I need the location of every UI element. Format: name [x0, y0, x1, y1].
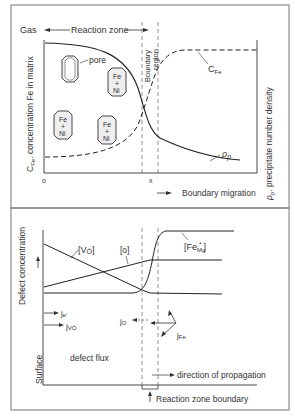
fe-mg-concentration-line: [44, 231, 234, 293]
propagation-label: direction of propagation: [177, 370, 266, 380]
gas-label: Gas: [20, 25, 37, 35]
propagation-arrow-icon: [170, 373, 175, 377]
jo-label: jO: [119, 317, 127, 326]
svg-text:+: +: [61, 123, 65, 130]
vo-label: [VÖ]: [78, 245, 94, 255]
y-axis-right-label: ρp. precipitate number density: [264, 87, 275, 201]
arrow-up-icon: [36, 256, 40, 261]
o-label: [o]: [120, 245, 129, 255]
svg-text:+: +: [105, 128, 109, 135]
boundary-bracket: [142, 385, 158, 389]
particle-fe-ni-2: Fe + Ni: [54, 111, 72, 139]
arrow-right-icon: [166, 191, 172, 195]
x-axis-label: Boundary migration: [182, 188, 256, 198]
svg-text:Ni: Ni: [103, 135, 110, 142]
jfe-arrow-icon: [161, 331, 166, 337]
bottom-panel: Defect concentration [VÖ] [o] [FeMg•] je…: [17, 227, 266, 404]
x-mark-label: x: [149, 177, 153, 184]
svg-text:Fe: Fe: [103, 121, 111, 128]
pore-icon: [62, 56, 78, 82]
defect-flux-label: defect flux: [70, 353, 109, 363]
reaction-zone-label: Reaction zone: [71, 25, 129, 35]
jo-arrow-icon: [132, 318, 137, 322]
diagram: Gas Reaction zone Boundary region CFe ρp: [0, 0, 295, 416]
jvo-arrow-icon: [59, 323, 64, 327]
svg-text:Fe: Fe: [113, 73, 121, 80]
rho-p-curve-label: ρp: [221, 149, 231, 161]
particle-fe-ni-3: Fe + Ni: [98, 116, 116, 144]
jvo-label: jVÖ: [65, 322, 77, 331]
top-panel: Gas Reaction zone Boundary region CFe ρp: [20, 22, 275, 201]
x-origin-label: o: [42, 177, 46, 184]
reaction-zone-boundary-label: Reaction zone boundary: [156, 394, 249, 404]
fe-mg-label: [FeMg•]: [184, 240, 206, 253]
svg-text:Ni: Ni: [113, 87, 120, 94]
arrow-left-icon: [44, 28, 50, 32]
c-fe-curve-label: CFe: [208, 64, 222, 75]
arrow-up-icon: [148, 391, 152, 396]
je-arrow-icon: [54, 311, 59, 315]
pore-label: pore: [89, 55, 106, 65]
surface-label: Surface: [34, 354, 44, 384]
particle-fe-ni-1: Fe + Ni: [108, 68, 126, 96]
arrow-right-icon: [143, 28, 149, 32]
je-label: je': [60, 309, 67, 318]
svg-text:+: +: [115, 80, 119, 87]
jfe-label: jFe: [176, 331, 186, 340]
y-axis-left-label: CFe. concentration Fe in matrix: [25, 56, 36, 172]
o-concentration-line: [44, 260, 222, 287]
defect-concentration-label: Defect concentration: [17, 227, 27, 305]
svg-text:Fe: Fe: [59, 116, 67, 123]
svg-text:Ni: Ni: [59, 130, 66, 137]
